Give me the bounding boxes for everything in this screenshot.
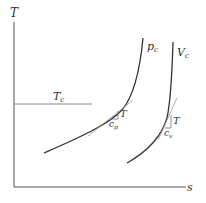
cp-run-label: cp bbox=[109, 119, 118, 131]
constant-pressure-label: pc bbox=[147, 40, 158, 54]
x-axis-label: s bbox=[187, 181, 193, 194]
ts-diagram: T s Tc pc T cp Vc T cv bbox=[0, 0, 206, 203]
cp-rise-label: T bbox=[120, 108, 128, 119]
cv-rise-label: T bbox=[173, 115, 181, 126]
critical-temperature-label: Tc bbox=[53, 90, 64, 104]
constant-volume-label: Vc bbox=[177, 46, 189, 60]
constant-volume-curve bbox=[127, 42, 173, 163]
y-axis-label: T bbox=[10, 6, 19, 20]
cv-run-label: cv bbox=[164, 128, 173, 139]
